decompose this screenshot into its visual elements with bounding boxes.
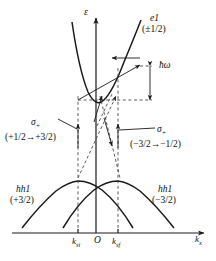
photon-energy-label: ħω <box>159 60 170 71</box>
spin-flip-path-up-right <box>78 96 116 178</box>
band-spin-label-hh1-left: (+3/2) <box>10 195 34 206</box>
origin-label: O <box>94 235 101 246</box>
band-label-e1: e1 <box>150 13 159 24</box>
tick-label-ksi: ksi <box>72 236 80 248</box>
energy-axis-label: ε <box>84 6 88 18</box>
band-label-hh1-left: hh1 <box>16 184 30 195</box>
band-label-hh1-right: hh1 <box>158 184 172 195</box>
spin-flip-paths <box>78 94 120 178</box>
spin-flip-arrow-down <box>104 118 112 146</box>
band-curve-hh1-left <box>22 181 133 228</box>
transition-left-label: (+1/2→+3/2) <box>5 132 56 143</box>
transition-right-label: (−3/2→−1/2) <box>130 139 181 150</box>
band-diagram-figure: ε e1 (±1/2) ħω σ+ (+1/2→+3/2) σ+ (−3/2→−… <box>0 0 216 261</box>
leader-line-left <box>58 119 77 129</box>
sigma-plus-left-label: σ+ <box>31 117 40 130</box>
tick-label-ksf: ksf <box>112 236 120 248</box>
band-diagram-canvas <box>0 0 216 261</box>
band-spin-label-hh1-right: (−3/2) <box>152 195 176 206</box>
kx-axis-label: kx <box>195 234 202 246</box>
band-spin-label-e1: (±1/2) <box>142 24 166 35</box>
leader-line-right <box>119 128 155 130</box>
sigma-plus-right-label: σ+ <box>157 124 166 137</box>
band-curve-e1 <box>72 20 141 103</box>
